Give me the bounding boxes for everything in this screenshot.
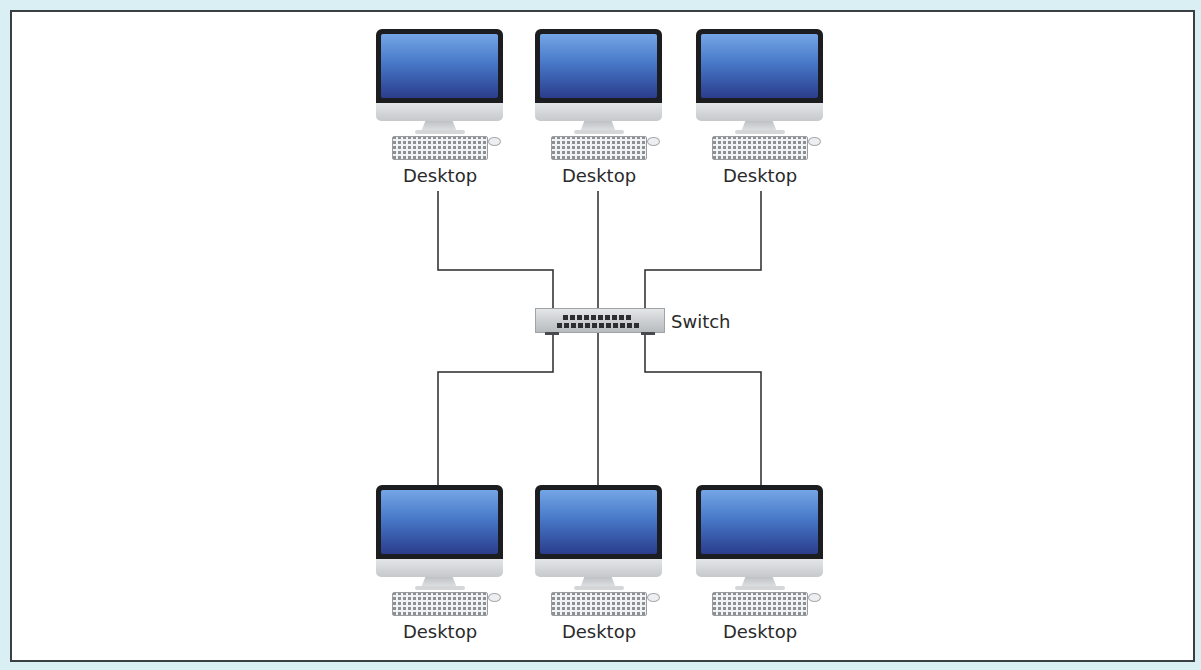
node-label: Desktop [676,621,844,642]
desktop-node-bottom-right: Desktop [696,485,824,655]
switch-foot-right [641,332,655,335]
wire-top-right [645,191,761,308]
node-label: Desktop [356,621,524,642]
wire-bottom-left [438,333,553,486]
node-label: Desktop [515,165,683,186]
network-switch-icon [535,308,665,333]
desktop-node-top-right: Desktop [696,29,824,199]
desktop-node-top-middle: Desktop [535,29,663,199]
node-label: Desktop [515,621,683,642]
node-label: Desktop [356,165,524,186]
desktop-node-bottom-left: Desktop [376,485,504,655]
switch-label: Switch [671,311,731,332]
desktop-node-top-left: Desktop [376,29,504,199]
node-label: Desktop [676,165,844,186]
switch-ports-bottom-row [557,323,641,328]
desktop-node-bottom-middle: Desktop [535,485,663,655]
wire-top-left [438,191,553,308]
switch-ports-top-row [563,315,631,320]
wire-bottom-right [645,333,761,486]
switch-foot-left [545,332,559,335]
